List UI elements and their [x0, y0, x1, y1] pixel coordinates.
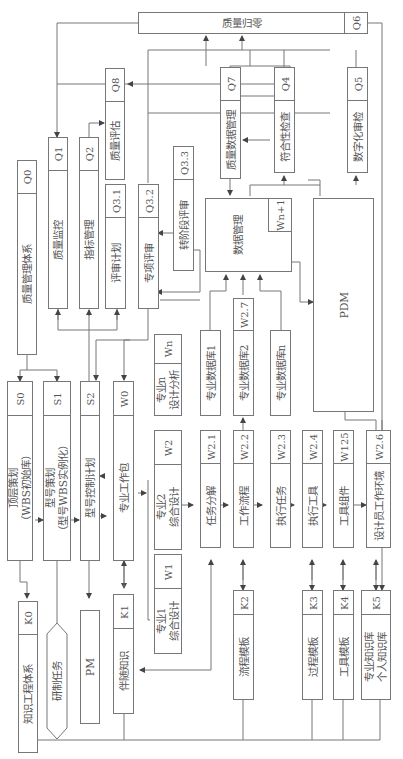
node-q3-3-code: Q3.3: [177, 151, 190, 175]
node-k1: K1 伴随知识: [113, 594, 134, 714]
node-data-management-code: Wn+1: [274, 199, 287, 230]
node-db2-label: 专业数据库2: [237, 345, 250, 402]
node-q7-code: Q7: [224, 77, 237, 92]
node-db2: W2.7 专业数据库2: [233, 298, 254, 416]
node-db2-code: W2.7: [237, 301, 250, 327]
node-q6-label: 质量归零: [222, 17, 262, 30]
node-q1-code: Q1: [52, 147, 65, 162]
node-q5-code: Q5: [351, 77, 364, 92]
node-k2: K2 流程模板: [233, 590, 254, 700]
node-k0: K0 知识工程体系: [18, 601, 38, 753]
node-s2: S2 型号控制计划: [80, 381, 100, 561]
node-k0-label: 知识工程体系: [22, 664, 35, 724]
node-s0-code: S0: [14, 392, 27, 405]
node-pm: PM: [80, 610, 100, 724]
node-pdm-label: PDM: [337, 292, 350, 318]
node-q5-label: 数字化审检: [351, 112, 364, 162]
node-w1-label: 专业1 综合设计: [155, 601, 181, 641]
node-k3-code: K3: [306, 596, 319, 610]
node-w2-2: W2.2 工作流程: [233, 430, 254, 548]
node-w0: W0 专业工作包: [113, 381, 134, 561]
node-w2-1-label: 任务分解: [204, 486, 217, 526]
node-q4: Q4 符合性检查: [274, 67, 295, 173]
node-w1-code: W1: [162, 563, 175, 580]
node-w2-3: W2.3 执行任务: [270, 430, 291, 548]
node-k5-label: 专业知识库 个人知识库: [363, 632, 389, 682]
node-q8-code: Q8: [109, 78, 122, 93]
node-q3-1-code: Q3.1: [109, 189, 122, 213]
node-s1: S1 型号策划 （型号WBS实例化）: [43, 381, 71, 561]
node-w2-4-code: W2.4: [306, 434, 319, 460]
node-w2-6-label: 设计员工作环境: [372, 471, 385, 541]
node-k2-label: 流程模板: [237, 637, 250, 677]
node-q2-code: Q2: [83, 147, 96, 162]
node-dbn: 专业数据库n: [270, 330, 291, 416]
node-w2-1-code: W2.1: [204, 434, 217, 460]
node-q3-2: Q3.2 专项评审: [138, 184, 159, 309]
node-s2-label: 型号控制计划: [84, 458, 97, 518]
node-w0-label: 专业工作包: [117, 463, 130, 513]
node-w125-code: W125: [337, 432, 350, 461]
node-q2-label: 指标管理: [83, 220, 96, 260]
node-k1-label: 伴随知识: [117, 651, 130, 691]
node-q6: 质量归零 Q6: [138, 12, 368, 34]
node-k4-label: 工具模板: [337, 637, 350, 677]
node-db1: 专业数据库1: [200, 330, 221, 416]
node-k5-code: K5: [370, 596, 383, 610]
node-w125: W125 工具组件: [333, 430, 354, 548]
node-w2-1: W2.1 任务分解: [200, 430, 221, 548]
node-q2: Q2 指标管理: [79, 137, 99, 309]
node-w2-3-label: 执行任务: [274, 486, 287, 526]
node-w0-code: W0: [117, 390, 130, 407]
node-q3-2-code: Q3.2: [142, 189, 155, 213]
node-q0-code: Q0: [21, 170, 34, 185]
node-q4-code: Q4: [278, 77, 291, 92]
node-pdm: PDM: [313, 198, 374, 412]
node-w2-2-code: W2.2: [237, 434, 250, 460]
node-q7: Q7 质量数据管理: [220, 67, 241, 179]
node-q8: Q8 质量评估: [105, 68, 125, 180]
node-s2-code: S2: [84, 392, 97, 405]
node-w2-3-code: W2.3: [274, 434, 287, 460]
node-k2-code: K2: [237, 596, 250, 610]
node-db1-label: 专业数据库1: [204, 345, 217, 402]
node-k3: K3 过程模板: [302, 590, 323, 700]
node-pm-label: PM: [84, 658, 97, 676]
node-k1-code: K1: [117, 605, 130, 619]
node-s0: S0 顶层策划 （WBS初始库）: [7, 381, 33, 561]
node-s0-label: 顶层策划 （WBS初始库）: [7, 450, 33, 526]
node-q5: Q5 数字化审检: [347, 67, 368, 173]
node-q3-3-label: 转阶段评审: [177, 200, 190, 250]
node-data-management-label: 数据管理: [231, 215, 244, 255]
node-w2: W2 专业2 综合设计: [154, 430, 182, 550]
node-q6-code: Q6: [350, 16, 363, 31]
node-s1-label: 型号策划 （型号WBS实例化）: [44, 440, 70, 536]
node-w2-4: W2.4 执行工具: [302, 430, 323, 548]
node-q1: Q1 质量监控: [48, 137, 68, 309]
diagram-canvas: 质量归零 Q6 Q8 质量评估 Q0 质量管理体系 Q1 质量监控 Q2 指标管…: [0, 0, 403, 759]
node-w125-label: 工具组件: [337, 486, 350, 526]
node-k4-code: K4: [337, 596, 350, 610]
node-q0: Q0 质量管理体系: [17, 160, 37, 355]
node-w2-4-label: 执行工具: [306, 486, 319, 526]
node-q3-1-label: 评审计划: [109, 243, 122, 283]
node-q1-label: 质量监控: [52, 220, 65, 260]
node-wn-label: 专业n 设计分析: [155, 370, 181, 410]
node-q4-label: 符合性检查: [278, 112, 291, 162]
node-k3-label: 过程模板: [306, 637, 319, 677]
node-task: 研制任务: [46, 622, 68, 740]
node-wn: Wn 专业n 设计分析: [154, 334, 182, 416]
node-q3-2-label: 专项评审: [142, 243, 155, 283]
node-q7-label: 质量数据管理: [224, 110, 237, 170]
node-k0-code: K0: [22, 611, 35, 625]
node-q0-label: 质量管理体系: [21, 244, 34, 304]
node-wn-code: Wn: [162, 341, 175, 358]
node-dbn-label: 专业数据库n: [274, 345, 287, 402]
node-w2-6: W2.6 设计员工作环境: [366, 430, 391, 548]
node-w2-label: 专业2 综合设计: [155, 487, 181, 527]
node-w1: W1 专业1 综合设计: [154, 554, 182, 654]
node-w2-code: W2: [162, 439, 175, 456]
wire-q6-q1: [57, 23, 138, 137]
node-q3-3: Q3.3 转阶段评审: [173, 146, 194, 271]
node-q3-1: Q3.1 评审计划: [105, 184, 126, 309]
